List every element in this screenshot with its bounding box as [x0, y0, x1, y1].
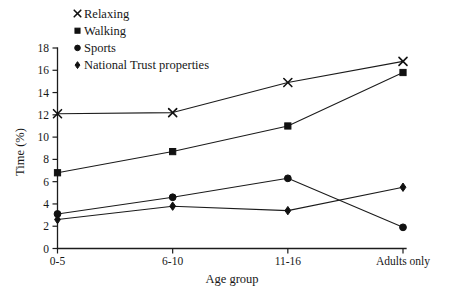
square-marker-icon: [400, 69, 406, 75]
x-tick-label: 0-5: [50, 255, 66, 267]
legend-item-relaxing[interactable]: Relaxing: [74, 7, 130, 21]
legend-item-national-trust-properties[interactable]: National Trust properties: [75, 58, 209, 72]
legend: RelaxingWalkingSportsNational Trust prop…: [74, 7, 209, 73]
x-axis-title: Age group: [205, 272, 258, 286]
series-line: [58, 187, 404, 219]
legend-item-sports[interactable]: Sports: [75, 41, 116, 55]
y-axis: 024681012141618: [38, 42, 58, 255]
circle-marker-icon: [284, 175, 291, 182]
y-tick-label: 6: [43, 176, 49, 188]
series-walking: [54, 69, 406, 175]
series-plot-group: [54, 57, 408, 230]
y-tick-label: 8: [43, 153, 49, 165]
x-tick-group: 0-56-1011-16Adults only: [50, 249, 430, 269]
series-national-trust-properties: [55, 183, 406, 224]
series-line: [58, 178, 404, 227]
square-marker-icon: [75, 28, 80, 33]
square-marker-icon: [170, 148, 176, 154]
diamond-marker-icon: [75, 62, 80, 69]
circle-marker-icon: [400, 224, 407, 231]
chart-figure: RelaxingWalkingSportsNational Trust prop…: [0, 0, 459, 294]
circle-marker-icon: [75, 45, 81, 51]
legend-item-walking[interactable]: Walking: [75, 24, 127, 38]
x-tick-label: Adults only: [376, 255, 430, 268]
x-axis: 0-56-1011-16Adults only: [50, 249, 430, 269]
legend-item-label: Walking: [84, 24, 127, 38]
diamond-marker-icon: [285, 206, 291, 214]
y-tick-label: 18: [38, 42, 50, 54]
y-tick-label: 2: [43, 220, 49, 232]
y-tick-label: 0: [43, 243, 49, 255]
x-tick-label: 6-10: [162, 255, 183, 267]
legend-item-label: Relaxing: [84, 7, 130, 21]
y-tick-group: 024681012141618: [38, 42, 58, 255]
legend-item-label: National Trust properties: [84, 58, 209, 72]
line-chart-svg: RelaxingWalkingSportsNational Trust prop…: [0, 0, 459, 294]
diamond-marker-icon: [170, 202, 176, 210]
square-marker-icon: [285, 123, 291, 129]
y-tick-label: 14: [38, 87, 50, 99]
y-axis-title: Time (%): [13, 128, 27, 176]
legend-item-label: Sports: [84, 41, 116, 55]
series-line: [58, 73, 404, 173]
x-tick-label: 11-16: [275, 255, 302, 267]
y-tick-label: 16: [38, 64, 50, 76]
y-tick-label: 10: [38, 131, 50, 143]
x-marker-icon: [74, 10, 81, 17]
square-marker-icon: [54, 170, 60, 176]
circle-marker-icon: [169, 194, 176, 201]
y-tick-label: 12: [38, 109, 50, 121]
y-tick-label: 4: [43, 198, 49, 210]
series-sports: [54, 175, 406, 231]
diamond-marker-icon: [400, 183, 406, 191]
